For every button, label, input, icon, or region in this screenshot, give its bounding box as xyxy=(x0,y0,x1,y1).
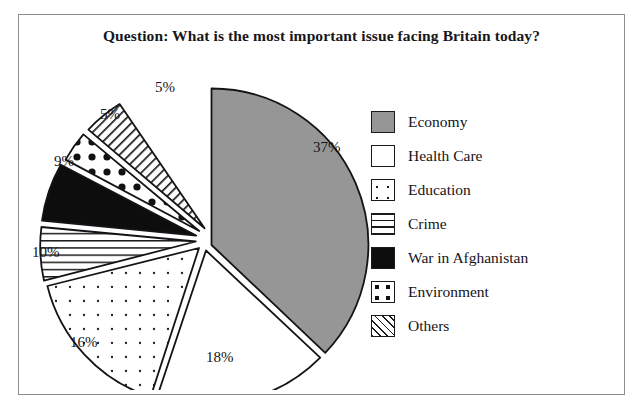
legend-label-health-care: Health Care xyxy=(408,147,482,165)
legend-item-crime: Crime xyxy=(371,207,621,241)
legend-label-education: Education xyxy=(408,181,471,199)
pie-label-war-in-afghanistan: 9% xyxy=(54,153,74,170)
legend-item-war-in-afghanistan: War in Afghanistan xyxy=(371,241,621,275)
page-title: Question: What is the most important iss… xyxy=(18,27,625,45)
legend: Economy Health Care Education Crime War … xyxy=(371,105,621,343)
legend-label-others: Others xyxy=(408,317,449,335)
pie-label-education: 16% xyxy=(70,334,98,351)
pie-label-others: 5% xyxy=(155,79,175,96)
environment-swatch-icon xyxy=(371,281,395,303)
pie-chart: 37% 18% 16% 10% 9% 5% 5% xyxy=(25,60,370,390)
war-in-afghanistan-swatch-icon xyxy=(371,247,395,269)
crime-swatch-icon xyxy=(371,213,395,235)
legend-item-health-care: Health Care xyxy=(371,139,621,173)
others-swatch-icon xyxy=(371,315,395,337)
chart-page: Question: What is the most important iss… xyxy=(0,0,641,409)
economy-swatch-icon xyxy=(371,111,395,133)
health-care-swatch-icon xyxy=(371,145,395,167)
pie-label-environment: 5% xyxy=(100,106,120,123)
legend-item-education: Education xyxy=(371,173,621,207)
legend-label-crime: Crime xyxy=(408,215,447,233)
legend-label-environment: Environment xyxy=(408,283,489,301)
pie-label-economy: 37% xyxy=(313,139,341,156)
legend-label-economy: Economy xyxy=(408,113,467,131)
legend-item-environment: Environment xyxy=(371,275,621,309)
legend-item-economy: Economy xyxy=(371,105,621,139)
pie-label-crime: 10% xyxy=(32,244,60,261)
education-swatch-icon xyxy=(371,179,395,201)
legend-item-others: Others xyxy=(371,309,621,343)
pie-label-health-care: 18% xyxy=(206,349,234,366)
legend-label-war-in-afghanistan: War in Afghanistan xyxy=(408,249,528,267)
